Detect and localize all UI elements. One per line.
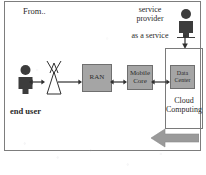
node-mobile-core-label-line2: Core	[133, 77, 147, 85]
double-arrow-icon	[151, 78, 170, 86]
node-data-center-label-line2: Center	[175, 77, 191, 83]
arrow-right-icon	[58, 78, 82, 86]
node-mobile-core-label: Mobile Core	[130, 70, 150, 85]
label-from: From..	[23, 7, 46, 17]
node-ran-label: RAN	[90, 74, 105, 82]
label-cloud-computing-line2: Computing	[165, 106, 203, 115]
node-ran: RAN	[82, 64, 112, 92]
block-arrow-left-icon-glyph	[151, 128, 199, 148]
node-data-center-label: Data Center	[175, 70, 191, 83]
label-cloud-computing: Cloud Computing	[165, 97, 203, 115]
arrow-down-icon	[181, 35, 189, 49]
label-service-provider-line2: provider	[125, 15, 175, 24]
person-icon	[175, 8, 197, 38]
label-as-a-service: as a service	[124, 32, 176, 41]
node-data-center-label-line1: Data	[177, 70, 188, 76]
label-service-provider: service provider	[125, 6, 175, 24]
connector-antenna-to-ran	[58, 72, 82, 90]
node-data-center: Data Center	[170, 65, 195, 89]
double-arrow-icon	[110, 78, 127, 86]
connector-ran-to-mobile-core	[110, 72, 127, 90]
label-end-user: end user	[10, 107, 41, 117]
node-mobile-core: Mobile Core	[127, 65, 153, 90]
diagram-frame: From.. service provider as a service Clo…	[4, 1, 201, 151]
connector-mobile-core-to-data-center	[151, 72, 170, 90]
block-arrow-left-icon	[151, 128, 199, 152]
